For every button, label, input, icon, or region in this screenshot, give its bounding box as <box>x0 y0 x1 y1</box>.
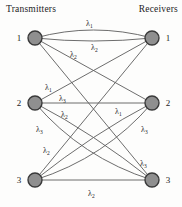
lightpath-edge-T3-R2-w3 <box>35 103 152 180</box>
receiver-node-1 <box>145 31 159 45</box>
transmitter-node-1 <box>28 31 42 45</box>
wavelength-label-T2-R3: λ3 <box>36 125 43 135</box>
transmitter-number-1: 1 <box>17 33 22 43</box>
wavelength-label-T2-R3: λ2 <box>61 110 68 120</box>
lightpath-edge-T2-R3-w2 <box>35 103 152 180</box>
receiver-node-2 <box>145 96 159 110</box>
wavelength-label-T2-R2: λ3 <box>59 94 66 104</box>
wavelength-label-T2-R1: λ1 <box>45 83 52 93</box>
lightpath-edge-T2-R3-w3 <box>35 103 152 180</box>
bipartite-lightpath-diagram: λ1λ2λ2λ3λ1λ3λ2λ3λ2λ1λ3λ2123123 <box>0 0 182 207</box>
transmitter-node-2 <box>28 96 42 110</box>
transmitter-number-3: 3 <box>17 175 22 185</box>
wavelength-label-T3-R2: λ3 <box>141 125 148 135</box>
receiver-number-2: 2 <box>166 98 171 108</box>
wavelength-label-T3-R2: λ1 <box>115 107 122 117</box>
wavelength-label-T1-R3: λ3 <box>140 159 147 169</box>
receiver-number-1: 1 <box>166 33 171 43</box>
transmitter-node-3 <box>28 173 42 187</box>
lightpath-edge-T3-R2-w1 <box>35 103 152 180</box>
wavelength-label-T1-R1: λ2 <box>91 43 98 53</box>
receiver-node-3 <box>145 173 159 187</box>
receiver-number-3: 3 <box>166 175 171 185</box>
lightpath-edge-T1-R1-w2 <box>35 38 152 41</box>
wavelength-label-T1-R2: λ2 <box>70 50 77 60</box>
wavelength-label-T1-R1: λ1 <box>86 19 93 29</box>
wavelength-label-T3-R3: λ2 <box>88 189 95 199</box>
lightpath-wavelength-figure: Transmitters Receivers λ1λ2λ2λ3λ1λ3λ2λ3λ… <box>0 0 182 207</box>
transmitter-number-2: 2 <box>17 98 22 108</box>
lightpath-edge-T1-R1-w1 <box>35 30 152 38</box>
wavelength-label-T3-R1: λ2 <box>43 146 50 156</box>
